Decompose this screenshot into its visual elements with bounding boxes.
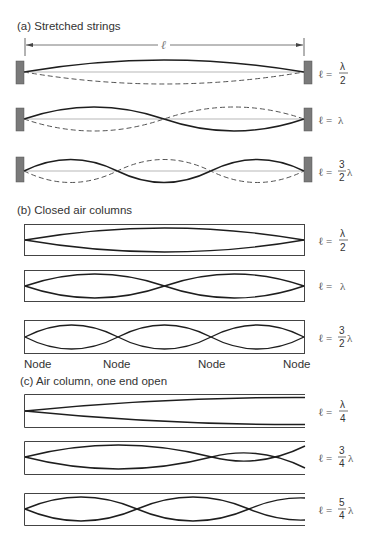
svg-text:ℓ =: ℓ =	[318, 504, 332, 516]
svg-text:ℓ =: ℓ =	[318, 452, 332, 464]
equation-b2: ℓ = λ	[318, 280, 346, 292]
closed-column-third	[25, 321, 305, 354]
svg-text:3: 3	[339, 445, 345, 456]
svg-text:4: 4	[339, 458, 345, 469]
equation-a2: ℓ = λ	[318, 114, 344, 126]
svg-text:2: 2	[339, 338, 345, 349]
svg-text:λ: λ	[338, 114, 344, 126]
svg-text:2: 2	[340, 75, 346, 86]
closed-column-fundamental	[25, 225, 305, 256]
svg-text:ℓ =: ℓ =	[318, 235, 332, 247]
arrow-right-icon	[296, 43, 303, 47]
section-c-title: (c) Air column, one end open	[20, 375, 167, 387]
svg-text:ℓ =: ℓ =	[318, 406, 332, 418]
clamp-left	[16, 61, 24, 84]
equation-c3: ℓ = 5 4 λ	[318, 497, 354, 521]
svg-text:λ: λ	[340, 399, 345, 410]
svg-text:λ: λ	[347, 332, 353, 344]
equation-c2: ℓ = 3 4 λ	[318, 445, 354, 469]
svg-text:ℓ =: ℓ =	[318, 166, 332, 178]
equation-a1: ℓ = λ 2	[318, 61, 348, 86]
svg-text:ℓ =: ℓ =	[318, 332, 332, 344]
node-label: Node	[198, 358, 226, 370]
length-label: ℓ	[161, 38, 166, 52]
node-labels: Node Node Node Node	[24, 358, 311, 370]
standing-waves-diagram: (a) Stretched strings ℓ ℓ = λ 2 ℓ = λ	[0, 0, 369, 534]
svg-text:2: 2	[340, 242, 346, 253]
svg-text:4: 4	[340, 413, 346, 424]
svg-text:λ: λ	[340, 280, 346, 292]
svg-text:3: 3	[339, 159, 345, 170]
equation-b3: ℓ = 3 2 λ	[318, 325, 353, 349]
svg-text:λ: λ	[347, 166, 353, 178]
svg-text:5: 5	[339, 497, 345, 508]
node-label: Node	[24, 358, 52, 370]
svg-text:3: 3	[339, 325, 345, 336]
open-column-fifth	[25, 494, 306, 526]
svg-text:ℓ =: ℓ =	[318, 68, 332, 80]
equation-b1: ℓ = λ 2	[318, 228, 348, 253]
svg-text:4: 4	[339, 510, 345, 521]
svg-text:λ: λ	[340, 228, 345, 239]
svg-text:ℓ =: ℓ =	[318, 114, 332, 126]
open-column-third	[25, 442, 306, 475]
length-dimension: ℓ	[25, 38, 304, 56]
section-b-title: (b) Closed air columns	[17, 204, 132, 216]
string-row-fundamental	[16, 60, 312, 84]
equation-c1: ℓ = λ 4	[318, 399, 348, 424]
node-label: Node	[283, 358, 311, 370]
svg-text:λ: λ	[348, 452, 354, 464]
equation-a3: ℓ = 3 2 λ	[318, 159, 353, 183]
node-label: Node	[103, 358, 131, 370]
open-column-fundamental	[25, 395, 306, 428]
svg-text:λ: λ	[340, 61, 345, 72]
section-a-title: (a) Stretched strings	[17, 20, 121, 32]
string-row-second-harmonic	[16, 107, 312, 131]
string-row-third-harmonic	[16, 157, 312, 183]
clamp-right	[304, 61, 312, 84]
closed-column-second	[25, 271, 305, 302]
arrow-left-icon	[26, 43, 33, 47]
svg-text:2: 2	[339, 172, 345, 183]
svg-text:ℓ =: ℓ =	[318, 280, 332, 292]
svg-text:λ: λ	[348, 504, 354, 516]
